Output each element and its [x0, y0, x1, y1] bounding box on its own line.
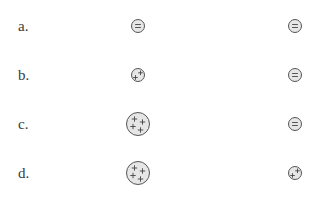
- left-sphere: [118, 55, 158, 95]
- left-sphere: [118, 104, 158, 144]
- right-sphere: [275, 153, 315, 193]
- option-row-d: d.: [0, 163, 334, 200]
- option-label: c.: [18, 115, 28, 133]
- option-row-b: b.: [0, 65, 334, 105]
- left-sphere: [118, 153, 158, 193]
- option-row-a: a.: [0, 16, 334, 56]
- positive-charge-sphere: [127, 162, 150, 185]
- negative-charge-sphere: [289, 118, 302, 131]
- right-sphere: [275, 104, 315, 144]
- option-row-c: c.: [0, 114, 334, 154]
- option-label: a.: [18, 17, 28, 35]
- negative-charge-sphere: [132, 20, 145, 33]
- right-sphere: [275, 55, 315, 95]
- positive-charge-sphere: [127, 113, 150, 136]
- positive-charge-sphere: [289, 167, 302, 180]
- negative-charge-sphere: [289, 20, 302, 33]
- right-sphere: [275, 6, 315, 46]
- option-label: d.: [18, 164, 29, 182]
- option-label: b.: [18, 66, 29, 84]
- positive-charge-sphere: [132, 69, 145, 82]
- negative-charge-sphere: [289, 69, 302, 82]
- left-sphere: [118, 6, 158, 46]
